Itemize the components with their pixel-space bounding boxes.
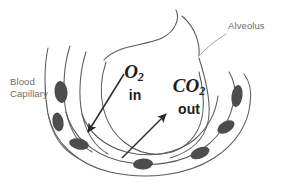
nucleus-bottom-center bbox=[133, 158, 154, 170]
carbon-dioxide-label-group: CO2 out bbox=[158, 76, 220, 117]
oxygen-label-group: O2 in bbox=[110, 62, 158, 103]
alveolus-gas-exchange-diagram: Blood Capillary Alveolus O2 in CO2 out bbox=[0, 0, 291, 190]
label-alveolus: Alveolus bbox=[228, 20, 265, 32]
nucleus-right-upper bbox=[230, 84, 244, 107]
leader-lines-group bbox=[199, 34, 226, 56]
oxygen-direction-label: in bbox=[110, 88, 158, 103]
oxygen-formula-main: O bbox=[124, 61, 138, 82]
capillary-right-outer-edge bbox=[244, 74, 251, 104]
oxygen-formula-subscript: 2 bbox=[138, 70, 144, 84]
co2-diffusion-arrow bbox=[122, 114, 166, 158]
carbon-dioxide-formula-subscript: 2 bbox=[199, 84, 205, 98]
oxygen-formula: O2 bbox=[110, 62, 158, 87]
nucleus-left-upper bbox=[53, 80, 68, 103]
capillary-inner-left-wall-2 bbox=[80, 52, 108, 154]
label-blood-capillary: Blood Capillary bbox=[10, 76, 48, 100]
carbon-dioxide-direction-label: out bbox=[158, 102, 220, 117]
nucleus-bottom-left bbox=[68, 137, 90, 152]
alveolus-top-right-curve bbox=[182, 16, 199, 56]
carbon-dioxide-formula-main: CO bbox=[173, 75, 199, 96]
alveolus-leader-line bbox=[199, 34, 226, 56]
carbon-dioxide-formula: CO2 bbox=[158, 76, 220, 101]
alveolus-top-left-curve bbox=[104, 10, 177, 60]
